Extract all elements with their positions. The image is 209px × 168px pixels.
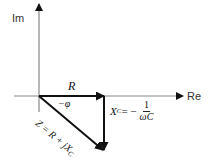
fraction-denominator: ωC [139, 112, 155, 123]
reactance-fraction: 1 ωC [139, 100, 155, 122]
imaginary-axis-label: Im [12, 13, 24, 24]
angle-label: −φ [58, 99, 70, 109]
reactance-equals: = − [121, 106, 136, 117]
real-axis-label: Re [187, 91, 201, 102]
reactance-symbol: X [110, 106, 117, 117]
reactance-label: XC = − 1 ωC [110, 100, 154, 122]
resistance-label: R [68, 80, 75, 92]
fraction-numerator: 1 [143, 100, 150, 112]
phasor-diagram-canvas [0, 0, 209, 168]
